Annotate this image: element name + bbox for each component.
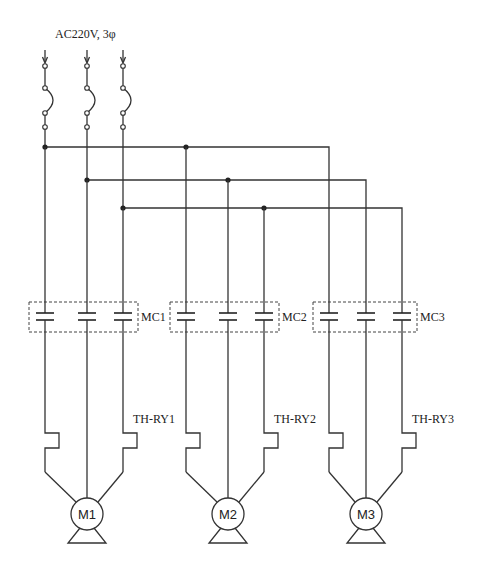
terminal bbox=[43, 86, 48, 91]
thermal-relay-label: TH-RY3 bbox=[412, 412, 454, 426]
motor-lead bbox=[98, 472, 123, 502]
terminal bbox=[121, 64, 126, 69]
motor-label: M2 bbox=[219, 507, 237, 522]
motor-M1: M1 bbox=[45, 340, 123, 543]
motor-lead bbox=[329, 472, 355, 502]
thermal-relay-TH-RY2: TH-RY2 bbox=[186, 340, 316, 472]
terminal bbox=[121, 125, 126, 130]
power-buses bbox=[42, 144, 402, 300]
terminal bbox=[121, 86, 126, 91]
thermal-relay-label: TH-RY2 bbox=[274, 412, 316, 426]
fuse-arc-icon bbox=[45, 88, 53, 113]
thermal-element bbox=[329, 340, 343, 472]
motor-M2: M2 bbox=[186, 340, 264, 543]
motor-M3: M3 bbox=[329, 340, 402, 543]
thermal-element bbox=[264, 340, 278, 472]
motor-lead bbox=[186, 472, 217, 502]
thermal-element bbox=[45, 340, 59, 472]
circuit-2: MC2TH-RY2M2 bbox=[170, 147, 316, 543]
contactor-MC3: MC3 bbox=[313, 300, 445, 340]
phase-2-supply bbox=[85, 50, 96, 180]
motor-label: M1 bbox=[78, 507, 96, 522]
phase-1-supply bbox=[43, 50, 54, 147]
phase-3-supply bbox=[121, 50, 132, 208]
terminal bbox=[85, 86, 90, 91]
terminal bbox=[85, 111, 90, 116]
thermal-relay-TH-RY1: TH-RY1 bbox=[45, 340, 175, 472]
terminal bbox=[43, 125, 48, 130]
terminal bbox=[43, 64, 48, 69]
contactor-MC1: MC1 bbox=[29, 300, 166, 340]
circuit-3: MC3TH-RY3M3 bbox=[313, 300, 454, 543]
thermal-relay-label: TH-RY1 bbox=[133, 412, 175, 426]
thermal-element bbox=[123, 340, 137, 472]
thermal-relay-TH-RY3: TH-RY3 bbox=[329, 340, 454, 472]
terminal bbox=[85, 64, 90, 69]
thermal-element bbox=[402, 340, 416, 472]
thermal-element bbox=[186, 340, 200, 472]
motor-lead bbox=[239, 472, 264, 502]
contactor-MC2: MC2 bbox=[170, 300, 307, 340]
motor-control-schematic: AC220V, 3φ MC1TH-RY1M1MC2TH-RY2M2MC3TH-R… bbox=[0, 0, 477, 576]
bus-phase-2 bbox=[87, 180, 366, 300]
motor-circuits: MC1TH-RY1M1MC2TH-RY2M2MC3TH-RY3M3 bbox=[29, 147, 454, 543]
supply-label: AC220V, 3φ bbox=[55, 27, 116, 41]
contactor-label: MC2 bbox=[282, 310, 307, 324]
motor-lead bbox=[45, 472, 76, 502]
fuse-arc-icon bbox=[87, 88, 95, 113]
contactor-label: MC3 bbox=[420, 310, 445, 324]
circuit-1: MC1TH-RY1M1 bbox=[29, 147, 175, 543]
motor-lead bbox=[377, 472, 402, 502]
terminal bbox=[121, 111, 126, 116]
fuse-arc-icon bbox=[123, 88, 131, 113]
motor-label: M3 bbox=[357, 507, 375, 522]
terminal bbox=[43, 111, 48, 116]
contactor-label: MC1 bbox=[141, 310, 166, 324]
bus-phase-3 bbox=[123, 208, 402, 300]
terminal bbox=[85, 125, 90, 130]
